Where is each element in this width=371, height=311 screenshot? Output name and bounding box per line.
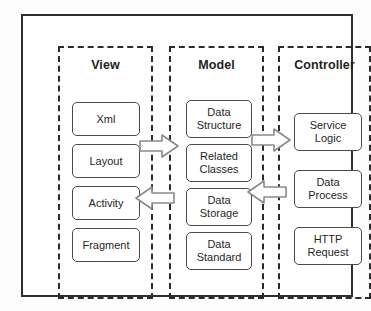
model-item-related-classes: Related Classes bbox=[186, 144, 252, 182]
arrow-model-to-controller-right-icon bbox=[251, 128, 291, 152]
controller-item-http-request: HTTP Request bbox=[294, 227, 362, 265]
diagram-outer-frame: View Xml Layout Activity Fragment Model … bbox=[21, 14, 353, 297]
controller-item-data-process: Data Process bbox=[294, 170, 362, 208]
arrow-controller-to-model-left-icon bbox=[247, 180, 287, 204]
controller-item-service-logic: Service Logic bbox=[294, 113, 362, 151]
view-item-layout: Layout bbox=[72, 144, 140, 178]
view-item-activity: Activity bbox=[72, 186, 140, 220]
model-item-data-standard: Data Standard bbox=[186, 232, 252, 270]
column-title-model: Model bbox=[171, 58, 262, 72]
model-item-data-structure: Data Structure bbox=[186, 100, 252, 138]
view-item-xml: Xml bbox=[72, 102, 140, 136]
column-title-view: View bbox=[60, 58, 151, 72]
column-controller: Controller Service Logic Data Process HT… bbox=[278, 46, 371, 299]
column-view: View Xml Layout Activity Fragment bbox=[58, 46, 153, 299]
column-model: Model Data Structure Related Classes Dat… bbox=[169, 46, 264, 299]
arrow-model-to-view-left-icon bbox=[135, 186, 175, 210]
model-item-data-storage: Data Storage bbox=[186, 188, 252, 226]
mvc-diagram: View Xml Layout Activity Fragment Model … bbox=[0, 0, 371, 311]
column-title-controller: Controller bbox=[280, 58, 369, 72]
arrow-view-to-model-right-icon bbox=[139, 134, 179, 158]
view-item-fragment: Fragment bbox=[72, 228, 140, 262]
